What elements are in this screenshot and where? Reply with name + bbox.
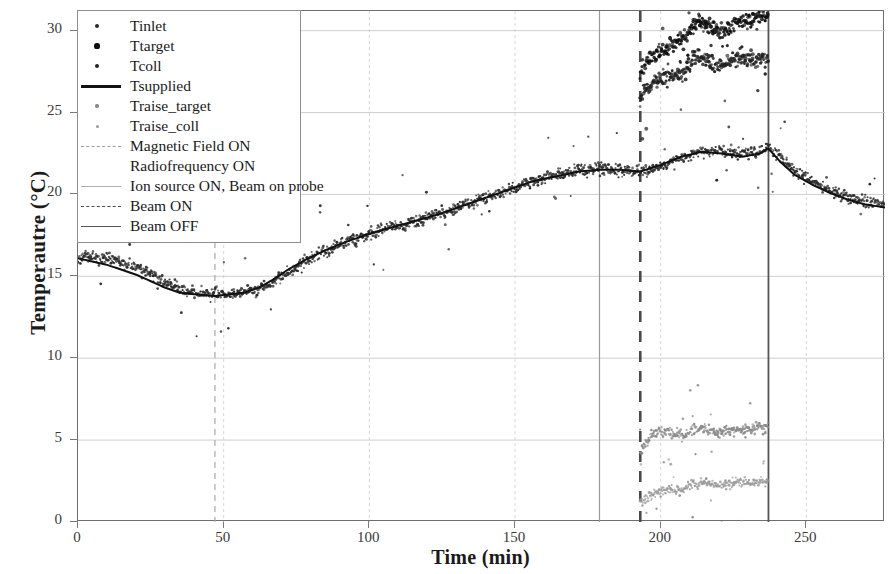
legend-label: Ion source ON, Beam on probe [130,178,324,194]
legend-label: Ttarget [130,38,174,54]
x-tick-label: 100 [338,529,398,546]
legend-dot-icon [78,96,130,116]
y-tick-label: 15 [16,265,62,282]
legend-label: Magnetic Field ON [130,138,251,154]
x-tick-mark [805,521,806,528]
y-tick-mark [70,439,77,440]
legend-label: Radiofrequency ON [130,158,255,174]
y-tick-label: 20 [16,183,62,200]
legend-item[interactable]: Tsupplied [78,76,300,96]
legend-dot-icon [78,56,130,76]
legend-label: Traise_coll [130,118,199,134]
x-axis-title: Time (min) [77,546,884,569]
x-tick-mark [368,521,369,528]
legend-dot-icon [78,36,130,56]
chart-legend: TinletTtargetTcollTsuppliedTraise_target… [77,10,301,243]
legend-item[interactable]: Beam OFF [78,216,300,236]
chart-figure: Temperautre (°C) Time (min) 051015202530… [0,0,894,574]
legend-item[interactable]: Beam ON [78,196,300,216]
x-tick-mark [77,521,78,528]
series-Traise_target [639,384,770,480]
legend-item[interactable]: Radiofrequency ON [78,156,300,176]
x-tick-mark [660,521,661,528]
y-tick-label: 30 [16,20,62,37]
legend-dash-light-icon [78,136,130,156]
y-tick-mark [70,30,77,31]
x-tick-label: 200 [630,529,690,546]
legend-solid-thick-icon [78,76,130,96]
legend-label: Tsupplied [130,78,191,94]
legend-dash-dark-icon [78,196,130,216]
legend-item[interactable]: Ttarget [78,36,300,56]
x-tick-label: 250 [775,529,835,546]
y-tick-mark [70,193,77,194]
y-tick-label: 25 [16,102,62,119]
legend-item[interactable]: Traise_target [78,96,300,116]
y-tick-mark [70,275,77,276]
legend-label: Beam ON [130,198,192,214]
y-tick-mark [70,521,77,522]
x-tick-label: 50 [193,529,253,546]
y-tick-mark [70,112,77,113]
legend-none-icon [78,156,130,176]
legend-solid-dark-icon [78,216,130,236]
x-tick-mark [223,521,224,528]
legend-label: Tinlet [130,18,166,34]
y-axis-title: Temperautre (°C) [26,123,51,383]
legend-dot-icon [78,116,130,136]
x-tick-label: 0 [47,529,107,546]
legend-solid-light-icon [78,176,130,196]
y-tick-label: 10 [16,347,62,364]
legend-label: Beam OFF [130,218,198,234]
legend-dot-icon [78,16,130,36]
legend-item[interactable]: Ion source ON, Beam on probe [78,176,300,196]
legend-item[interactable]: Tinlet [78,16,300,36]
legend-item[interactable]: Tcoll [78,56,300,76]
y-tick-label: 5 [16,429,62,446]
x-tick-mark [514,521,515,528]
legend-label: Traise_target [130,98,211,114]
series-Traise_coll [639,436,769,522]
x-tick-label: 150 [484,529,544,546]
legend-label: Tcoll [130,58,162,74]
legend-item[interactable]: Magnetic Field ON [78,136,300,156]
y-tick-label: 0 [16,511,62,528]
y-tick-mark [70,357,77,358]
legend-item[interactable]: Traise_coll [78,116,300,136]
